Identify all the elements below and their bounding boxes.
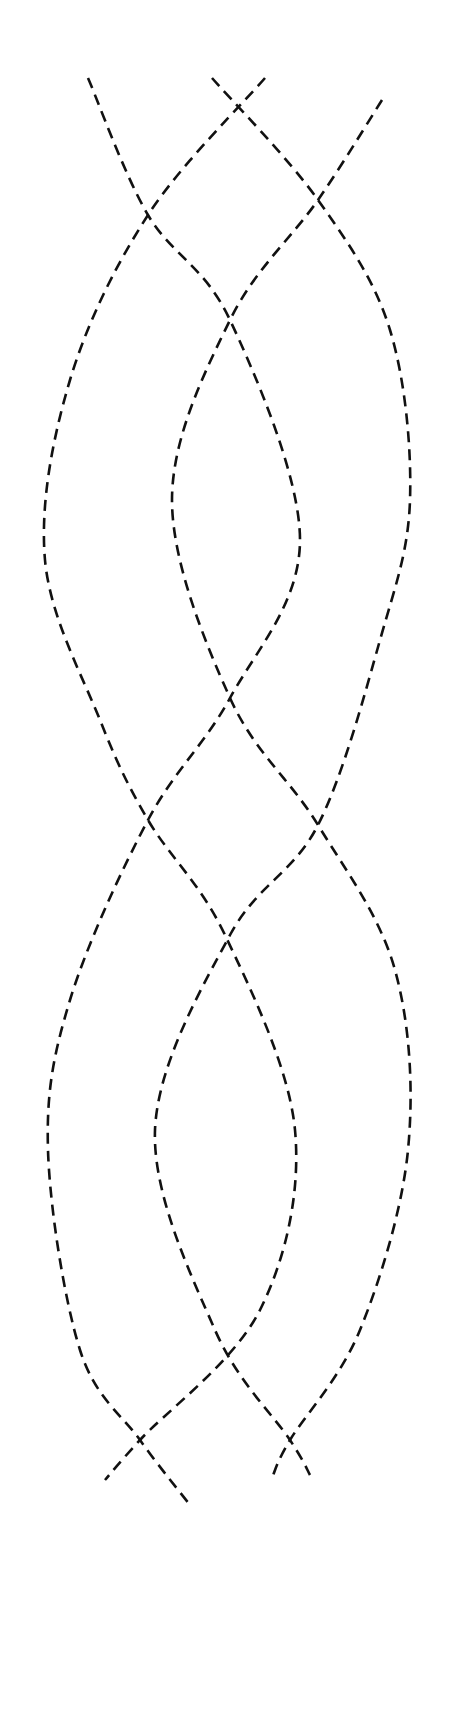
braided-strands-figure <box>0 0 476 1728</box>
strands-group <box>44 78 411 1505</box>
outer-left-strand <box>48 78 300 1505</box>
outer-right-strand <box>44 78 296 1480</box>
inner-right-strand <box>172 100 411 1478</box>
